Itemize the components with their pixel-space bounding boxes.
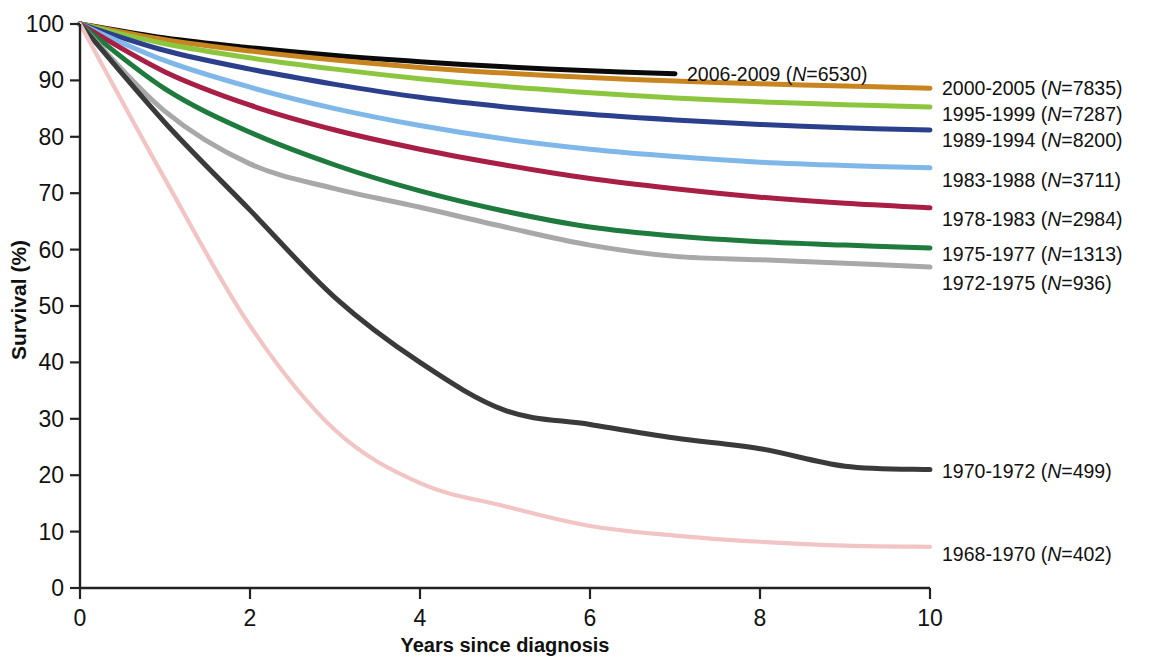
series-layer xyxy=(80,24,930,547)
legend-label-1995-1999: 1995-1999 (N=7287) xyxy=(942,103,1123,125)
x-tick-label: 8 xyxy=(754,605,767,631)
y-tick-label: 100 xyxy=(26,11,64,37)
y-axis-label: Survival (%) xyxy=(7,240,30,360)
y-tick-label: 90 xyxy=(38,67,64,93)
x-tick-label: 6 xyxy=(584,605,597,631)
legend-label-1972-1975: 1972-1975 (N=936) xyxy=(942,272,1112,294)
legend-layer: 2006-2009 (N=6530)2000-2005 (N=7835)1995… xyxy=(687,63,1123,565)
survival-chart: 01020304050607080901000246810 2006-2009 … xyxy=(0,0,1153,660)
x-tick-label: 2 xyxy=(244,605,257,631)
legend-label-1970-1972: 1970-1972 (N=499) xyxy=(942,460,1112,482)
legend-label-2006-2009: 2006-2009 (N=6530) xyxy=(687,63,868,85)
legend-label-1978-1983: 1978-1983 (N=2984) xyxy=(942,208,1123,230)
y-tick-label: 40 xyxy=(38,349,64,375)
legend-label-1989-1994: 1989-1994 (N=8200) xyxy=(942,129,1123,151)
x-tick-label: 4 xyxy=(414,605,427,631)
series-line-1975-1977 xyxy=(80,24,930,248)
y-tick-label: 60 xyxy=(38,237,64,263)
legend-label-1983-1988: 1983-1988 (N=3711) xyxy=(942,169,1121,191)
x-axis-label: Years since diagnosis xyxy=(401,634,610,656)
y-tick-label: 80 xyxy=(38,124,64,150)
legend-label-1975-1977: 1975-1977 (N=1313) xyxy=(942,243,1123,265)
y-tick-label: 10 xyxy=(38,519,64,545)
legend-label-1968-1970: 1968-1970 (N=402) xyxy=(942,543,1112,565)
legend-label-2000-2005: 2000-2005 (N=7835) xyxy=(942,77,1123,99)
y-tick-label: 20 xyxy=(38,462,64,488)
x-tick-label: 0 xyxy=(74,605,87,631)
y-tick-label: 50 xyxy=(38,293,64,319)
chart-canvas: 01020304050607080901000246810 2006-2009 … xyxy=(0,0,1153,660)
y-tick-label: 70 xyxy=(38,180,64,206)
y-tick-label: 30 xyxy=(38,406,64,432)
x-tick-label: 10 xyxy=(917,605,943,631)
y-tick-label: 0 xyxy=(51,575,64,601)
